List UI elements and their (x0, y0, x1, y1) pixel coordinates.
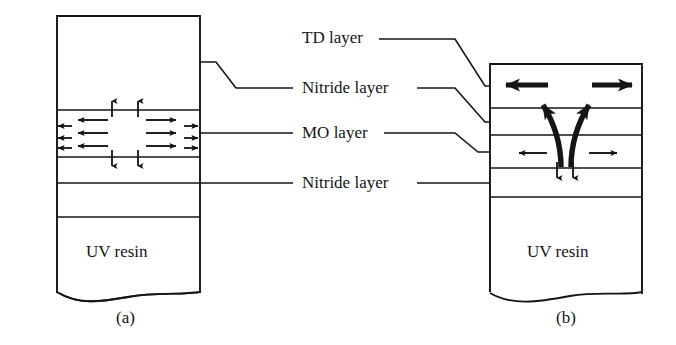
leader-b-td (379, 39, 490, 86)
label-uv-resin-b: UV resin (527, 242, 589, 262)
leader-lines (200, 39, 490, 183)
panel-b-stack (488, 64, 642, 302)
label-uv-resin-a: UV resin (86, 242, 148, 262)
leader-a-nitride-top (200, 62, 293, 88)
leader-b-mo (384, 133, 490, 152)
leader-b-nitride-top (417, 88, 490, 122)
caption-panel-b: (b) (556, 308, 576, 328)
label-nitride-layer-top: Nitride layer (302, 78, 388, 98)
label-td-layer: TD layer (302, 28, 363, 48)
caption-panel-a: (a) (116, 308, 135, 328)
label-nitride-layer-bottom: Nitride layer (302, 173, 388, 193)
figure-container: TD layer Nitride layer MO layer Nitride … (0, 0, 676, 345)
label-mo-layer: MO layer (302, 123, 368, 143)
